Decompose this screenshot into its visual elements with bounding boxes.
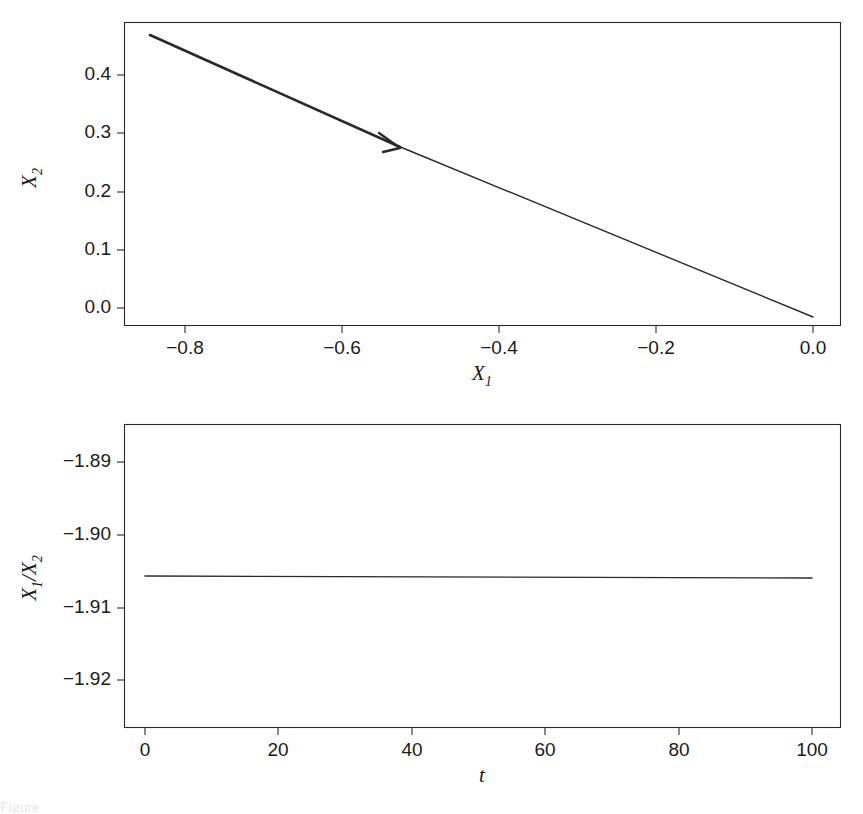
x-tick-label: 20	[267, 739, 288, 760]
x-tick-label: −0.8	[166, 337, 204, 358]
y-axis-top: 0.0 0.1 0.2 0.3 0.4	[85, 63, 124, 317]
x-tick-label: 0	[140, 739, 151, 760]
panel-ratio-vs-time: −1.92 −1.91 −1.90 −1.89 0 20 40 60	[17, 425, 841, 788]
y-axis-title-sub-2: 2	[30, 555, 45, 562]
y-axis-title-text: X2	[17, 168, 45, 189]
ratio-series-line	[145, 576, 812, 578]
x-axis-title-top: X1	[471, 361, 492, 389]
x-tick-label: 0.0	[800, 337, 826, 358]
figure-container: 0.0 0.1 0.2 0.3 0.4 −0.8 −0.6 −0.4	[0, 0, 863, 814]
trajectory-segment-thick	[150, 35, 400, 147]
y-tick-label: −1.92	[63, 668, 111, 689]
y-tick-label: −1.91	[63, 596, 111, 617]
x-axis-title-bottom: t	[479, 763, 486, 787]
panel-phase-portrait: 0.0 0.1 0.2 0.3 0.4 −0.8 −0.6 −0.4	[17, 23, 841, 390]
x-axis-title-text: t	[479, 763, 486, 787]
x-tick-label: 100	[796, 739, 828, 760]
y-axis-title-text: X1/X2	[17, 555, 45, 602]
x-tick-label: −0.6	[323, 337, 361, 358]
y-axis-title-sub: 2	[30, 168, 45, 175]
y-tick-label: −1.89	[63, 450, 111, 471]
figure-caption-partial: Figure	[0, 800, 300, 814]
x-axis-title-sub: 1	[485, 374, 492, 389]
y-axis-bottom: −1.92 −1.91 −1.90 −1.89	[63, 450, 124, 689]
y-tick-label: 0.4	[85, 63, 112, 84]
x-axis-title-base: X	[471, 361, 486, 385]
y-axis-title-base-2: X	[17, 561, 41, 576]
y-tick-label: 0.1	[85, 238, 111, 259]
x-tick-label: −0.4	[480, 337, 518, 358]
x-tick-label: 40	[401, 739, 422, 760]
x-tick-label: −0.2	[637, 337, 675, 358]
figure-svg: 0.0 0.1 0.2 0.3 0.4 −0.8 −0.6 −0.4	[0, 0, 863, 814]
trajectory-segment-thin	[398, 146, 813, 317]
x-axis-bottom: 0 20 40 60 80 100	[140, 727, 828, 760]
y-tick-label: 0.0	[85, 296, 111, 317]
plot-frame-top	[125, 23, 841, 326]
y-axis-title-top: X2	[17, 168, 45, 189]
x-tick-label: 60	[534, 739, 555, 760]
x-axis-top: −0.8 −0.6 −0.4 −0.2 0.0	[166, 325, 826, 358]
x-axis-title-text: X1	[471, 361, 492, 389]
y-axis-title-bottom: X1/X2	[17, 555, 45, 602]
y-axis-title-base-1: X	[17, 587, 41, 602]
x-tick-label: 80	[668, 739, 689, 760]
y-tick-label: −1.90	[63, 523, 111, 544]
y-tick-label: 0.2	[85, 180, 111, 201]
y-axis-title-base: X	[17, 174, 41, 189]
y-tick-label: 0.3	[85, 121, 111, 142]
y-axis-title-sub-1: 1	[30, 581, 45, 588]
